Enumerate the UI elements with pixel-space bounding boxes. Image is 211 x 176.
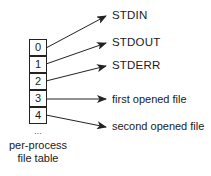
- label-second-opened-file: second opened file: [112, 120, 204, 133]
- fd-cell-2: 2: [29, 73, 47, 90]
- label-stdout: STDOUT: [112, 36, 160, 49]
- fd-cell-3: 3: [29, 90, 47, 107]
- arrow-2-to-stderr: [46, 66, 106, 81]
- arrow-4-to-second-file: [46, 115, 106, 127]
- file-descriptor-diagram: 0 1 2 3 4 ... per-process file table STD…: [0, 0, 211, 176]
- fd-cell-1: 1: [29, 56, 47, 73]
- table-caption-line2: file table: [6, 152, 70, 165]
- label-stdin: STDIN: [112, 9, 148, 22]
- fd-cell-4: 4: [29, 107, 47, 124]
- label-stderr: STDERR: [112, 59, 160, 72]
- fd-cell-0: 0: [29, 39, 47, 56]
- table-continuation: ...: [28, 127, 48, 136]
- table-caption-line1: per-process: [6, 139, 70, 152]
- arrow-1-to-stdout: [46, 43, 106, 64]
- arrow-0-to-stdin: [46, 16, 106, 48]
- label-first-opened-file: first opened file: [112, 93, 187, 106]
